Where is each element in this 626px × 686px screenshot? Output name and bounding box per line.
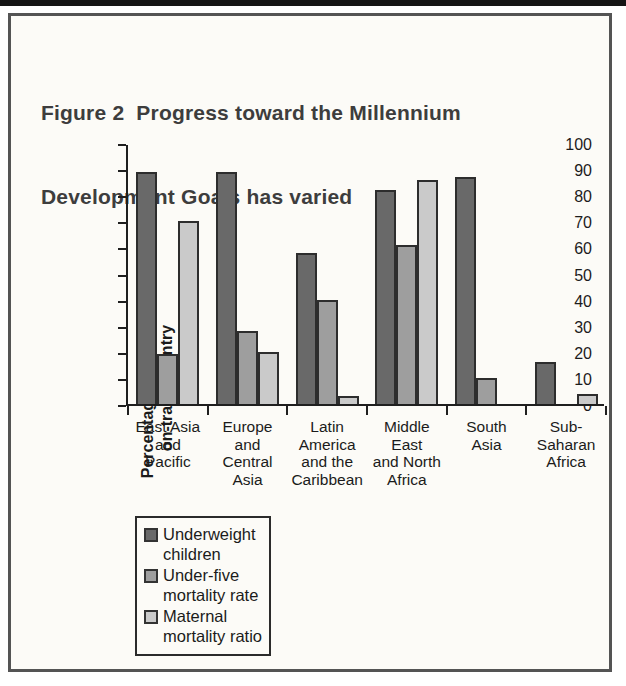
y-axis-tick <box>118 405 126 407</box>
y-axis-tick <box>118 379 126 381</box>
y-axis-tick-label: 40 <box>542 293 592 311</box>
x-axis-category-label: East AsiaandPacific <box>122 418 214 471</box>
x-axis-tick <box>605 406 607 415</box>
y-axis-tick-label: 90 <box>542 162 592 180</box>
y-axis-tick <box>118 327 126 329</box>
bar-underweight-children-1 <box>136 172 157 404</box>
x-axis-category-label: SouthAsia <box>441 418 533 453</box>
x-axis-tick <box>127 406 129 415</box>
bar-maternal-mortality-ratio-4 <box>417 180 438 404</box>
bar-under-five-mortality-rate-3 <box>317 300 338 404</box>
y-axis-tick-label: 70 <box>542 214 592 232</box>
chart-legend: UnderweightchildrenUnder-fivemortality r… <box>135 516 271 656</box>
y-axis-tick <box>118 196 126 198</box>
bar-underweight-children-3 <box>296 253 317 404</box>
legend-swatch-icon <box>144 610 158 624</box>
legend-entry: Under-fivemortality rate <box>144 566 265 605</box>
y-axis-tick <box>118 301 126 303</box>
legend-entry: Maternalmortality ratio <box>144 607 265 646</box>
bar-underweight-children-6 <box>535 362 556 404</box>
x-axis-tick <box>207 406 209 415</box>
bar-underweight-children-2 <box>216 172 237 404</box>
bar-under-five-mortality-rate-4 <box>396 245 417 404</box>
legend-swatch-icon <box>144 569 158 583</box>
y-axis-tick <box>118 248 126 250</box>
y-axis-tick-label: 20 <box>542 345 592 363</box>
bar-maternal-mortality-ratio-3 <box>338 396 359 404</box>
figure-frame: Figure 2 Progress toward the Millennium … <box>8 13 612 672</box>
x-axis-category-label: LatinAmericaand theCaribbean <box>281 418 373 488</box>
y-axis-tick-label: 30 <box>542 319 592 337</box>
x-axis-category-label: Sub-SaharanAfrica <box>520 418 612 471</box>
scanned-page: Figure 2 Progress toward the Millennium … <box>0 0 626 686</box>
page-top-scan-band <box>0 0 626 6</box>
x-axis-category-label: MiddleEastand NorthAfrica <box>361 418 453 488</box>
x-axis-tick <box>286 406 288 415</box>
x-axis-tick <box>446 406 448 415</box>
bar-maternal-mortality-ratio-6 <box>577 394 598 404</box>
legend-label: Maternalmortality ratio <box>163 607 262 646</box>
x-axis-tick <box>366 406 368 415</box>
y-axis-tick <box>118 170 126 172</box>
legend-entry: Underweightchildren <box>144 525 265 564</box>
y-axis-tick-label: 80 <box>542 188 592 206</box>
x-axis-tick <box>525 406 527 415</box>
bar-maternal-mortality-ratio-1 <box>178 221 199 404</box>
y-axis-tick <box>118 144 126 146</box>
bar-maternal-mortality-ratio-2 <box>258 352 279 404</box>
legend-label: Under-fivemortality rate <box>163 566 258 605</box>
y-axis-tick-label: 100 <box>542 136 592 154</box>
bar-under-five-mortality-rate-1 <box>157 354 178 404</box>
y-axis-tick <box>118 275 126 277</box>
legend-swatch-icon <box>144 528 158 542</box>
figure-title-line1: Figure 2 Progress toward the Millennium <box>41 99 461 127</box>
y-axis-tick-label: 50 <box>542 267 592 285</box>
bar-under-five-mortality-rate-2 <box>237 331 258 404</box>
y-axis-tick <box>118 222 126 224</box>
bar-under-five-mortality-rate-5 <box>476 378 497 404</box>
y-axis-tick-label: 60 <box>542 240 592 258</box>
bar-underweight-children-5 <box>455 177 476 404</box>
bar-underweight-children-4 <box>375 190 396 404</box>
plot-area: Percentage of people in on-track country… <box>126 145 604 406</box>
x-axis-category-label: EuropeandCentralAsia <box>202 418 294 488</box>
legend-label: Underweightchildren <box>163 525 256 564</box>
y-axis-tick <box>118 353 126 355</box>
